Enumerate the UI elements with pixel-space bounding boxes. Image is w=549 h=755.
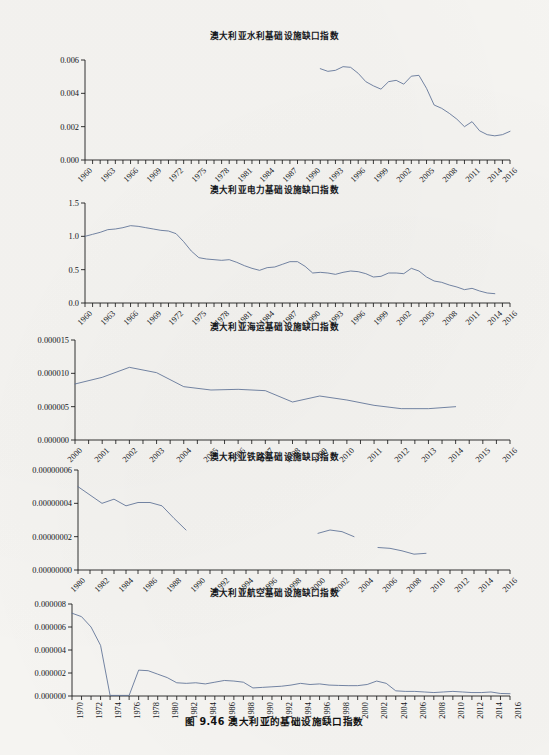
x-tick-label: 1990 xyxy=(266,702,275,719)
x-tick-label: 2010 xyxy=(456,702,465,719)
x-tick-label: 2002 xyxy=(380,702,389,719)
x-tick-label: 2000 xyxy=(361,702,370,719)
y-tick-label: 0.002 xyxy=(60,122,79,131)
x-tick-label: 1988 xyxy=(247,702,256,719)
x-tick-label: 2004 xyxy=(399,702,408,719)
x-tick-label: 1982 xyxy=(190,702,199,719)
x-tick-label: 1972 xyxy=(95,702,104,719)
data-line-railway xyxy=(78,487,186,530)
y-tick-label: 0.00000006 xyxy=(32,466,72,475)
data-line-maritime xyxy=(75,367,456,408)
y-tick-label: 0.000010 xyxy=(38,369,69,378)
plot-area-water xyxy=(0,20,549,164)
y-tick-label: 0.000004 xyxy=(35,646,66,655)
x-tick-label: 2016 xyxy=(514,702,523,719)
plot-area-maritime xyxy=(0,312,549,444)
y-tick-label: 1.5 xyxy=(69,199,79,208)
x-tick-label: 1986 xyxy=(228,702,237,719)
y-tick-label: 0.006 xyxy=(60,56,79,65)
y-tick-label: 0.000002 xyxy=(35,669,66,678)
y-tick-label: 0.000000 xyxy=(38,436,69,445)
y-tick-label: 0.000008 xyxy=(35,600,66,609)
y-tick-label: 1.0 xyxy=(69,232,79,241)
y-tick-label: 0.000006 xyxy=(35,623,66,632)
y-tick-label: 0.00000000 xyxy=(32,566,72,575)
y-tick-label: 0.00000004 xyxy=(32,499,72,508)
x-tick-label: 1994 xyxy=(304,702,313,719)
data-line-water xyxy=(320,67,510,136)
x-tick-label: 2012 xyxy=(475,702,484,719)
x-tick-label: 1980 xyxy=(171,702,180,719)
plot-area-aviation xyxy=(0,582,549,700)
x-tick-label: 1984 xyxy=(209,702,218,719)
data-line-aviation xyxy=(72,613,510,695)
x-tick-label: 1970 xyxy=(76,702,85,719)
x-tick-label: 1992 xyxy=(285,702,294,719)
plot-area-railway xyxy=(0,447,549,574)
x-tick-label: 2014 xyxy=(494,702,503,719)
x-tick-label: 1974 xyxy=(114,702,123,719)
y-tick-label: 0.000 xyxy=(60,156,79,165)
x-tick-label: 1978 xyxy=(152,702,161,719)
x-tick-label: 1998 xyxy=(342,702,351,719)
plot-area-electricity xyxy=(0,175,549,307)
x-tick-label: 1996 xyxy=(323,702,332,719)
x-tick-label: 1976 xyxy=(133,702,142,719)
data-line-railway xyxy=(378,548,426,555)
y-tick-label: 0.0 xyxy=(69,299,79,308)
figure-container: 澳大利亚水利基础设施缺口指数 澳大利亚电力基础设施缺口指数 澳大利亚海运基础设施… xyxy=(0,0,549,755)
x-tick-label: 2006 xyxy=(418,702,427,719)
data-line-electricity xyxy=(85,226,495,294)
y-tick-label: 0.000000 xyxy=(35,692,66,701)
y-tick-label: 0.004 xyxy=(60,89,79,98)
y-tick-label: 0.000015 xyxy=(38,336,69,345)
x-tick-label: 2008 xyxy=(437,702,446,719)
y-tick-label: 0.000005 xyxy=(38,402,69,411)
y-tick-label: 0.5 xyxy=(69,265,79,274)
y-tick-label: 0.00000002 xyxy=(32,532,72,541)
data-line-railway xyxy=(318,530,354,537)
